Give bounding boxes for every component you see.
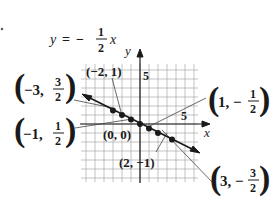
svg-text:2: 2: [250, 102, 256, 116]
y-tick-label-5: 5: [143, 69, 149, 83]
svg-text:1: 1: [98, 25, 104, 39]
svg-text:−: −: [76, 32, 84, 47]
point-neg1: [128, 117, 134, 123]
x-axis-label: x: [203, 125, 210, 140]
svg-text:x: x: [109, 32, 117, 47]
callout-origin: (0, 0): [103, 127, 131, 142]
svg-text:1: 1: [55, 119, 61, 133]
svg-text:−3,: −3,: [24, 82, 44, 98]
svg-text:−1,: −1,: [23, 126, 43, 142]
callout-pos2: (2, −1): [119, 155, 155, 170]
svg-text:2: 2: [250, 181, 256, 195]
svg-text:1: 1: [250, 87, 256, 101]
callout-neg2: (−2, 1): [86, 64, 122, 79]
point-pos1: [146, 126, 152, 132]
equation-label: y = − 1 2 x: [48, 25, 117, 55]
line-arrow-left-icon: [82, 94, 92, 101]
x-tick-label-5: 5: [181, 109, 187, 123]
svg-text:=: =: [62, 32, 70, 47]
svg-text:2: 2: [55, 90, 61, 104]
linear-function-graph-figure: x y 5 5 y = − 1 2 x ( −3,: [0, 0, 270, 207]
callout-neg1: ( −1, 1 2 ): [14, 111, 76, 149]
svg-text:y: y: [48, 32, 57, 47]
callout-neg3: ( −3, 3 2 ): [14, 67, 76, 105]
point-origin: [137, 121, 143, 127]
svg-text:): ): [65, 67, 76, 105]
svg-text:3: 3: [55, 75, 61, 89]
svg-text:3, −: 3, −: [220, 173, 244, 189]
svg-text:2: 2: [98, 41, 104, 55]
bullet-mark: [1, 28, 3, 30]
point-pos3: [169, 137, 175, 143]
point-neg2: [119, 112, 125, 118]
y-axis-arrow-icon: [137, 49, 143, 57]
svg-text:): ): [65, 111, 76, 149]
svg-text:1, −: 1, −: [218, 94, 242, 110]
svg-text:): ): [259, 80, 270, 118]
callout-pos1: ( 1, − 1 2 ): [208, 80, 270, 118]
y-axis-label: y: [123, 43, 131, 58]
callout-pos3: ( 3, − 3 2 ): [210, 159, 270, 197]
point-pos2: [155, 130, 161, 136]
point-neg3: [110, 108, 116, 114]
svg-text:3: 3: [250, 166, 256, 180]
svg-text:2: 2: [55, 134, 61, 148]
svg-text:): ): [259, 159, 270, 197]
line-arrow-right-icon: [190, 146, 200, 153]
